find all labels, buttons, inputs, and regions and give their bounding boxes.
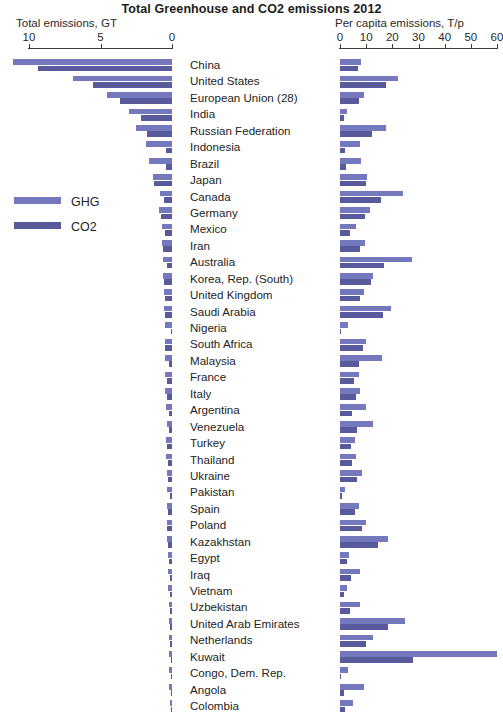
bar-right-ghg <box>340 257 412 263</box>
bar-right-ghg <box>340 651 497 657</box>
chart-row: Saudi Arabia <box>0 305 503 321</box>
chart-row: Indonesia <box>0 140 503 156</box>
bar-right-co2 <box>340 329 341 335</box>
bar-right-ghg <box>340 240 365 246</box>
bar-right-co2 <box>340 460 352 466</box>
country-label: United Kingdom <box>190 288 273 301</box>
country-label: Japan <box>190 173 222 186</box>
bar-left-ghg <box>167 421 172 427</box>
bar-right-ghg <box>340 520 366 526</box>
bar-right-co2 <box>340 98 359 104</box>
bar-right-co2 <box>340 394 356 400</box>
country-label: Pakistan <box>190 485 234 498</box>
bar-right-ghg <box>340 372 359 378</box>
bar-left-ghg <box>166 404 172 410</box>
bar-right-ghg <box>340 191 403 197</box>
bar-left-ghg <box>162 240 172 246</box>
bar-right-ghg <box>340 684 364 690</box>
bar-right-co2 <box>340 690 344 696</box>
chart-row: Netherlands <box>0 633 503 649</box>
country-label: European Union (28) <box>190 91 298 104</box>
bar-right-ghg <box>340 454 356 460</box>
chart-row: Pakistan <box>0 485 503 501</box>
bar-left-ghg <box>162 224 172 230</box>
bar-right-ghg <box>340 437 355 443</box>
bar-right-ghg <box>340 174 367 180</box>
country-label: Vietnam <box>190 584 232 597</box>
bar-right-co2 <box>340 214 365 220</box>
right-tick-40: 40 <box>438 31 451 43</box>
bar-right-co2 <box>340 427 357 433</box>
bar-left-ghg <box>169 618 172 624</box>
bar-left-co2 <box>93 82 172 88</box>
bar-left-co2 <box>167 263 172 269</box>
bar-right-co2 <box>340 707 345 713</box>
bar-left-ghg <box>163 257 172 263</box>
bar-left-co2 <box>161 214 172 220</box>
bar-left-co2 <box>170 641 172 647</box>
bar-right-co2 <box>340 592 344 598</box>
bar-left-co2 <box>166 164 172 170</box>
chart-row: Mexico <box>0 222 503 238</box>
bar-left-co2 <box>171 657 172 663</box>
bar-right-co2 <box>340 608 350 614</box>
bar-left-ghg <box>153 174 172 180</box>
bar-right-ghg <box>340 503 359 509</box>
country-label: Canada <box>190 190 231 203</box>
chart-row: Kuwait <box>0 650 503 666</box>
bar-left-ghg <box>169 651 172 657</box>
country-label: Kuwait <box>190 650 225 663</box>
chart-row: Russian Federation <box>0 124 503 140</box>
bar-left-co2 <box>171 707 172 713</box>
bar-left-ghg <box>165 322 172 328</box>
bar-left-ghg <box>169 602 172 608</box>
country-label: Korea, Rep. (South) <box>190 272 293 285</box>
bar-right-co2 <box>340 477 357 483</box>
chart-row: India <box>0 107 503 123</box>
country-label: Poland <box>190 518 226 531</box>
bar-right-co2 <box>340 542 378 548</box>
country-label: Australia <box>190 255 235 268</box>
right-tick-30: 30 <box>412 31 425 43</box>
bar-right-ghg <box>340 487 345 493</box>
bar-left-co2 <box>165 312 172 318</box>
chart-row: Malaysia <box>0 354 503 370</box>
bar-right-ghg <box>340 602 360 608</box>
country-label: Mexico <box>190 222 227 235</box>
chart-rows: ChinaUnited StatesEuropean Union (28)Ind… <box>0 58 503 716</box>
chart-row: United States <box>0 74 503 90</box>
country-label: Malaysia <box>190 354 236 367</box>
bar-right-ghg <box>340 207 370 213</box>
chart-row: Thailand <box>0 453 503 469</box>
country-label: Russian Federation <box>190 124 291 137</box>
bar-left-ghg <box>163 273 172 279</box>
right-tick-0: 0 <box>337 31 343 43</box>
bar-right-co2 <box>340 246 360 252</box>
country-label: Colombia <box>190 699 239 712</box>
bar-left-co2 <box>170 575 172 581</box>
country-label: Egypt <box>190 551 220 564</box>
axis-tick-mark <box>445 44 446 48</box>
bar-right-ghg <box>340 618 405 624</box>
country-label: Iraq <box>190 568 210 581</box>
bar-left-ghg <box>168 569 172 575</box>
country-label: Thailand <box>190 453 234 466</box>
bar-right-co2 <box>340 197 381 203</box>
chart-row: South Africa <box>0 337 503 353</box>
left-tick-0: 0 <box>169 31 175 43</box>
axis-tick-mark <box>497 44 498 48</box>
chart-row: Venezuela <box>0 420 503 436</box>
country-label: United States <box>190 74 260 87</box>
bar-right-ghg <box>340 339 366 345</box>
country-label: Angola <box>190 683 226 696</box>
bar-left-ghg <box>169 635 172 641</box>
country-label: Uzbekistan <box>190 600 247 613</box>
bar-right-ghg <box>340 388 360 394</box>
bar-right-ghg <box>340 125 386 131</box>
chart-row: Poland <box>0 518 503 534</box>
bar-right-co2 <box>340 493 342 499</box>
bar-left-co2 <box>170 592 172 598</box>
bar-left-ghg <box>149 158 172 164</box>
chart-row: France <box>0 370 503 386</box>
axis-tick-mark <box>29 44 30 48</box>
